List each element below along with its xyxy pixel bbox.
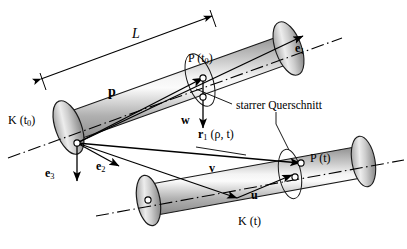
label-vector-w: w (181, 114, 190, 126)
label-vector-e1: e1 (295, 42, 305, 57)
label-vector-u: u (251, 189, 258, 201)
label-vector-e3: e3 (45, 167, 55, 182)
label-vector-e2: e2 (96, 160, 106, 175)
diagram-svg (0, 0, 407, 249)
label-config-initial: K (t0) (8, 114, 35, 129)
label-length-L: L (132, 27, 140, 41)
label-config-current: K (t) (238, 215, 261, 227)
upper-axis (8, 38, 342, 158)
figure-canvas: L K (t0) P (t0) starrer Querschnitt p w … (0, 0, 407, 249)
upper-cylinder (47, 18, 310, 158)
label-rigid-cross-section: starrer Querschnitt (236, 100, 322, 112)
label-vector-v: v (209, 162, 215, 174)
label-vector-r1: r1 (ρ, t) (198, 128, 234, 143)
label-vector-p: p (108, 85, 116, 99)
vector-r1 (77, 143, 300, 163)
label-point-current: P (t) (310, 152, 331, 164)
label-point-initial: P (t0) (188, 52, 213, 67)
